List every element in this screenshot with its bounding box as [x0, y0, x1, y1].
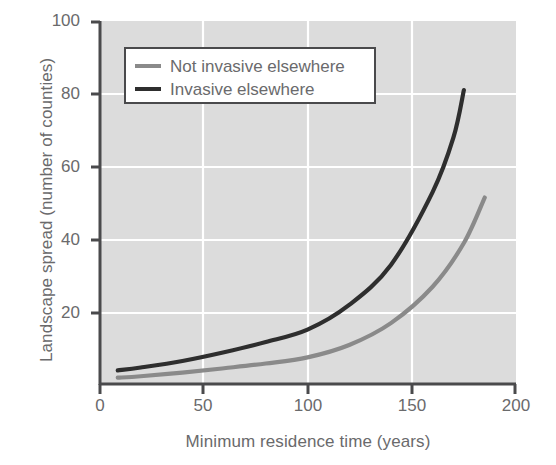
- x-tick-label-200: 200: [490, 396, 542, 416]
- x-tick-label-0: 0: [74, 396, 126, 416]
- legend-label-invasive: Invasive elsewhere: [170, 81, 315, 98]
- y-axis-title: Landscape spread (number of counties): [37, 62, 57, 362]
- chart-legend: Not invasive elsewhere Invasive elsewher…: [124, 47, 376, 104]
- x-tick-label-100: 100: [282, 396, 334, 416]
- x-tick-label-50: 50: [177, 396, 229, 416]
- x-axis-title: Minimum residence time (years): [99, 432, 517, 452]
- legend-item-not-invasive: Not invasive elsewhere: [135, 54, 345, 78]
- chart-figure: 100 80 60 40 20 0 50 100 150 200 Landsca…: [0, 0, 556, 465]
- legend-swatch-invasive: [135, 87, 161, 91]
- legend-swatch-not-invasive: [135, 64, 161, 68]
- x-tick-label-150: 150: [386, 396, 438, 416]
- legend-item-invasive: Invasive elsewhere: [135, 77, 315, 101]
- y-tick-label-100: 100: [28, 11, 80, 31]
- legend-label-not-invasive: Not invasive elsewhere: [170, 58, 345, 75]
